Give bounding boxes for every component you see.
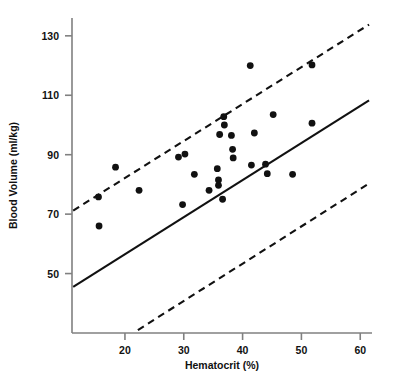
data-point xyxy=(248,162,255,169)
data-point xyxy=(262,161,269,168)
data-point xyxy=(214,165,221,172)
y-axis-title: Blood Volume (ml/kg) xyxy=(7,122,19,229)
data-point xyxy=(95,193,102,200)
x-axis-tick-label: 40 xyxy=(237,344,249,356)
data-point xyxy=(229,146,236,153)
data-point xyxy=(206,187,213,194)
data-point xyxy=(221,122,228,129)
data-point xyxy=(230,155,237,162)
data-point xyxy=(309,120,316,127)
data-point xyxy=(309,62,316,69)
scatter-plot-figure: 5070901101302030405060Hematocrit (%)Bloo… xyxy=(0,0,399,389)
data-point xyxy=(112,164,119,171)
y-axis-tick-label: 70 xyxy=(47,208,59,220)
data-point xyxy=(136,187,143,194)
y-axis-tick-label: 50 xyxy=(47,268,59,280)
data-point xyxy=(270,111,277,118)
data-point xyxy=(175,154,182,161)
data-point xyxy=(220,113,227,120)
data-point xyxy=(216,131,223,138)
data-point xyxy=(219,196,226,203)
y-axis-tick-label: 130 xyxy=(41,30,59,42)
data-point xyxy=(182,151,189,158)
x-axis-tick-label: 30 xyxy=(178,344,190,356)
x-axis-tick-label: 50 xyxy=(296,344,308,356)
data-point xyxy=(264,170,271,177)
lower-prediction-limit xyxy=(138,184,369,331)
data-point xyxy=(289,171,296,178)
data-point xyxy=(228,132,235,139)
y-axis-tick-label: 110 xyxy=(42,89,59,101)
x-axis-title: Hematocrit (%) xyxy=(185,359,259,371)
data-point xyxy=(215,182,222,189)
data-point xyxy=(179,201,186,208)
regression-line xyxy=(73,100,369,287)
x-axis-tick-label: 60 xyxy=(354,344,366,356)
data-point xyxy=(247,62,254,69)
data-point xyxy=(251,130,258,137)
x-axis-tick-label: 20 xyxy=(119,344,131,356)
data-point xyxy=(191,171,198,178)
data-point xyxy=(96,223,103,230)
plot-canvas: 5070901101302030405060Hematocrit (%)Bloo… xyxy=(0,0,399,389)
y-axis-tick-label: 90 xyxy=(47,149,59,161)
